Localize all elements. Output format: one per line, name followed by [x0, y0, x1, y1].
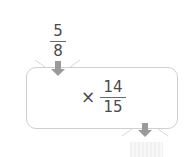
output-arrow-icon [138, 123, 152, 137]
multiply-operator: × [81, 89, 95, 106]
arrow-icons-layer [0, 0, 187, 157]
operation-numerator: 14 [103, 80, 122, 95]
input-arrow-icon [51, 61, 65, 76]
answer-box[interactable] [130, 142, 163, 157]
operation-denominator: 15 [103, 100, 122, 115]
operation-fraction: 14 15 [100, 80, 126, 115]
